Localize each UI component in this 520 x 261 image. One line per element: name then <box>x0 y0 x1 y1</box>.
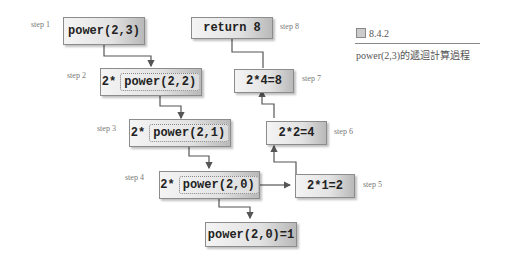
node-2-times-power-2-2: 2* power(2,2) <box>100 68 202 96</box>
multiplier-prefix: 2* <box>160 178 174 192</box>
node-2-times-power-2-1: 2* power(2,1) <box>129 119 231 147</box>
node-label: power(2,3) <box>68 24 140 38</box>
node-return-8: return 8 <box>191 17 273 39</box>
step-label-6: step 6 <box>334 127 353 136</box>
recursive-call: power(2,1) <box>149 124 229 142</box>
multiplier-prefix: 2* <box>102 75 116 89</box>
step-label-1: step 1 <box>31 20 50 29</box>
node-2-times-power-2-0: 2* power(2,0) <box>159 171 260 199</box>
recursive-call: power(2,2) <box>120 73 200 91</box>
step-label-4: step 4 <box>125 173 144 182</box>
node-label: 2*1=2 <box>307 179 343 193</box>
step-label-7: step 7 <box>302 74 321 83</box>
node-label: return 8 <box>203 21 261 35</box>
figure-number-text: 8.4.2 <box>369 28 389 39</box>
multiplier-prefix: 2* <box>131 126 145 140</box>
step-label-5: step 5 <box>363 180 382 189</box>
node-2-times-1: 2*1=2 <box>295 174 355 198</box>
figure-number: 8.4.2 <box>356 28 389 39</box>
node-label: power(2,0)=1 <box>208 228 294 242</box>
caption-divider <box>355 43 480 44</box>
step-label-3: step 3 <box>97 124 116 133</box>
figure-icon <box>356 28 366 38</box>
node-label: 2*4=8 <box>246 74 282 88</box>
node-2-times-4: 2*4=8 <box>234 69 294 93</box>
recursive-call: power(2,0) <box>179 176 259 194</box>
figure-caption: power(2,3)的遞迴計算過程 <box>356 47 470 62</box>
node-base-case: power(2,0)=1 <box>205 222 297 247</box>
step-label-2: step 2 <box>67 71 86 80</box>
step-label-8: step 8 <box>280 22 299 31</box>
node-2-times-2: 2*2=4 <box>266 121 327 145</box>
node-label: 2*2=4 <box>278 126 314 140</box>
node-power-2-3: power(2,3) <box>63 17 145 45</box>
